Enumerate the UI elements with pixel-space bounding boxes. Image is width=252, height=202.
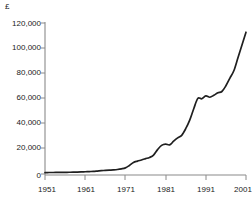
x-axis-tick-marks — [45, 175, 246, 180]
y-tick-label-100000: 100,000 — [12, 43, 41, 52]
x-tick-label-1991: 1991 — [197, 185, 215, 194]
y-tick-label-80000: 80,000 — [17, 68, 42, 77]
x-axis-tick-labels: 1951 1961 1971 1981 1991 2001 — [38, 185, 252, 194]
y-tick-label-40000: 40,000 — [17, 118, 42, 127]
x-tick-label-2001: 2001 — [234, 185, 252, 194]
y-axis-tick-labels: 120,000 100,000 80,000 60,000 40,000 20,… — [12, 19, 41, 180]
x-tick-label-1981: 1981 — [157, 185, 175, 194]
house-price-line-series — [45, 32, 246, 172]
x-tick-label-1951: 1951 — [38, 185, 56, 194]
x-tick-label-1961: 1961 — [77, 185, 95, 194]
y-tick-label-120000: 120,000 — [12, 19, 41, 28]
line-chart-plot: 120,000 100,000 80,000 60,000 40,000 20,… — [0, 0, 252, 202]
y-axis-tick-marks — [41, 23, 45, 174]
chart-container: £ 120,000 100,000 80,000 60,000 40,000 2… — [0, 0, 252, 202]
x-tick-label-1971: 1971 — [117, 185, 135, 194]
y-tick-label-60000: 60,000 — [17, 93, 42, 102]
y-tick-label-0: 0 — [37, 171, 42, 180]
y-tick-label-20000: 20,000 — [17, 143, 42, 152]
